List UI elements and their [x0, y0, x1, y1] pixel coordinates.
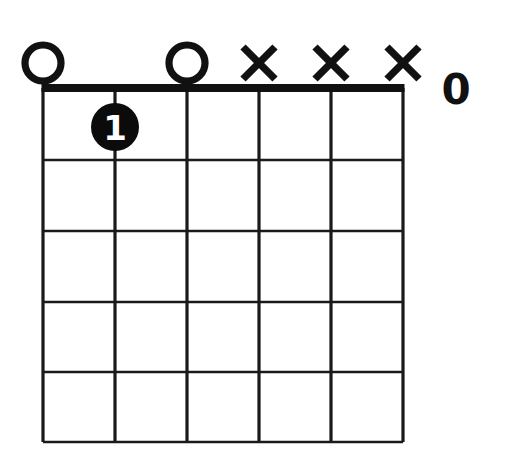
fret-lines: [43, 160, 403, 442]
finger-position-marker-1: 1: [91, 103, 139, 151]
chord-diagram: 1 0 0 O 1 O X X X: [0, 0, 508, 468]
mute-marker-string-4: [243, 47, 275, 79]
open-marker-string-1: [25, 45, 61, 81]
open-marker-string-3: [169, 45, 205, 81]
chord-diagram-canvas: 1 0: [0, 0, 508, 468]
nut-bar: [42, 84, 405, 92]
muted-string-markers: [243, 47, 419, 79]
finger-number-label: 1: [103, 108, 127, 148]
mute-marker-string-5: [315, 47, 347, 79]
open-string-markers: [25, 45, 205, 81]
side-label-zero: 0: [441, 65, 470, 114]
mute-marker-string-6: [387, 47, 419, 79]
